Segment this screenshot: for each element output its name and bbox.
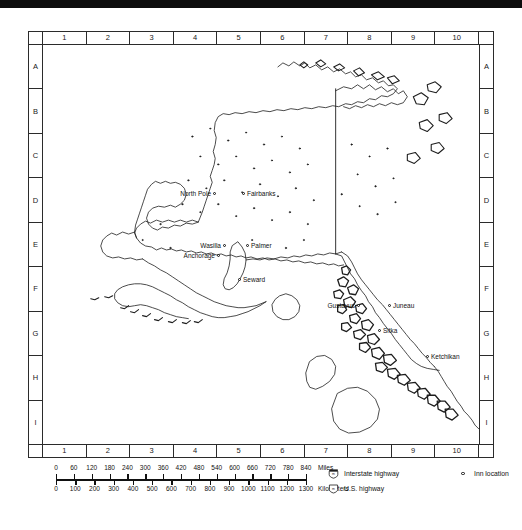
scale-miles-tick-720: 720 (265, 464, 276, 471)
legend-item-interstate: m Interstate highway (326, 466, 399, 481)
map-canvas[interactable]: North PoleFairbanksWasillaPalmerAnchorag… (43, 45, 479, 444)
scale-bar: 0601201802403003604204805406006607207808… (56, 464, 306, 495)
city-label-juneau: Juneau (393, 302, 414, 309)
grid-row-label-D: D (29, 178, 42, 222)
city-label-seward: Seward (243, 276, 265, 283)
scale-tick-mark (145, 474, 146, 480)
city-label-gustavus: Gustavus (43, 302, 355, 309)
scale-miles-tick-540: 540 (211, 464, 222, 471)
canada-border-southeast (336, 254, 440, 370)
grid-row-label-A: A (480, 45, 493, 89)
scale-km-tick-1300: 1300 (299, 485, 313, 492)
inn-location-marker[interactable] (223, 244, 226, 247)
scale-tick-mark (163, 474, 164, 480)
scale-km-tick-200: 200 (89, 485, 100, 492)
grid-row-label-G: G (480, 312, 493, 356)
grid-column-label-1: 1 (43, 32, 87, 44)
grid-row-label-C: C (29, 134, 42, 178)
inn-circle-icon (456, 472, 470, 475)
legend-label-us-highway: U.S. highway (344, 485, 384, 492)
scale-miles-tick-840: 840 (301, 464, 312, 471)
legend-item-inn: Inn location (456, 466, 509, 481)
grid-column-label-3: 3 (130, 32, 174, 44)
us-route-shield-icon: m (326, 483, 340, 494)
inn-location-marker[interactable] (357, 304, 360, 307)
scale-km-tick-100: 100 (70, 485, 81, 492)
grid-row-label-I: I (29, 401, 42, 444)
scale-miles-tick-0: 0 (54, 464, 58, 471)
interstate-shield-icon: m (326, 468, 340, 479)
legend-column-right: Inn location (456, 466, 509, 481)
scale-tick-mark (181, 474, 182, 480)
grid-column-label-4: 4 (174, 32, 218, 44)
grid-row-label-E: E (29, 223, 42, 267)
grid-row-label-A: A (29, 45, 42, 89)
legend-label-inn: Inn location (474, 470, 509, 477)
scan-edge-bar (0, 0, 522, 8)
grid-column-label-7: 7 (305, 445, 349, 457)
grid-row-label-F: F (480, 267, 493, 311)
inn-location-marker[interactable] (246, 244, 249, 247)
grid-row-label-F: F (29, 267, 42, 311)
scale-miles-tick-420: 420 (176, 464, 187, 471)
city-label-fairbanks: Fairbanks (247, 190, 276, 197)
scale-tick-mark (92, 474, 93, 480)
city-label-sitka: Sitka (383, 327, 397, 334)
grid-corner-spacer (29, 32, 43, 44)
interior-speckle (142, 128, 396, 249)
inn-location-marker[interactable] (238, 278, 241, 281)
grid-column-label-1: 1 (43, 445, 87, 457)
grid-column-label-9: 9 (392, 445, 436, 457)
grid-row-label-D: D (480, 178, 493, 222)
alaska-mainland-coast (135, 62, 398, 266)
scale-tick-mark (110, 474, 111, 480)
inn-location-marker[interactable] (388, 304, 391, 307)
scale-km-tick-1100: 1100 (261, 485, 275, 492)
map-legend: m Interstate highway m U.S. highway Inn … (326, 466, 399, 496)
scale-miles-tick-480: 480 (193, 464, 204, 471)
scale-miles-tick-180: 180 (104, 464, 115, 471)
scale-miles-tick-60: 60 (70, 464, 77, 471)
scale-km-tick-900: 900 (224, 485, 235, 492)
grid-row-label-B: B (29, 89, 42, 133)
scale-kilometers-ticks: 0100200300400500600700800900100011001200… (56, 485, 306, 495)
grid-rows-right: ABCDEFGHI (479, 45, 493, 444)
scale-km-tick-1200: 1200 (280, 485, 294, 492)
scale-miles-tick-300: 300 (140, 464, 151, 471)
grid-column-label-7: 7 (305, 32, 349, 44)
inn-location-marker[interactable] (242, 192, 245, 195)
legend-item-us-highway: m U.S. highway (326, 481, 399, 496)
legend-label-interstate: Interstate highway (344, 470, 399, 477)
scale-km-tick-700: 700 (185, 485, 196, 492)
grid-column-label-2: 2 (87, 445, 131, 457)
aleutian-islands (91, 296, 202, 324)
scale-miles-tick-120: 120 (86, 464, 97, 471)
scale-miles-tick-240: 240 (122, 464, 133, 471)
scale-tick-mark (217, 474, 218, 480)
scale-miles-tick-660: 660 (247, 464, 258, 471)
grid-column-label-6: 6 (261, 445, 305, 457)
grid-rows-left: ABCDEFGHI (29, 45, 43, 444)
canadian-arctic-islands (407, 82, 452, 164)
inn-location-marker[interactable] (378, 329, 381, 332)
map-frame: 12345678910 12345678910 ABCDEFGHI ABCDEF… (28, 31, 494, 458)
scale-miles-ticks: 0601201802403003604204805406006607207808… (56, 464, 306, 474)
seward-peninsula (135, 220, 199, 238)
grid-corner-spacer (479, 32, 493, 44)
inn-location-marker[interactable] (213, 192, 216, 195)
scale-km-tick-1000: 1000 (241, 485, 255, 492)
grid-row-label-G: G (29, 312, 42, 356)
inn-location-marker[interactable] (217, 254, 220, 257)
scale-tick-mark (199, 474, 200, 480)
scale-miles-tick-780: 780 (283, 464, 294, 471)
grid-column-label-10: 10 (435, 32, 479, 44)
grid-row-label-I: I (480, 401, 493, 444)
grid-row-label-E: E (480, 223, 493, 267)
scale-rule (56, 474, 306, 485)
grid-column-label-5: 5 (217, 32, 261, 44)
scale-tick-mark (288, 474, 289, 480)
scale-km-tick-300: 300 (108, 485, 119, 492)
inn-location-marker[interactable] (426, 355, 429, 358)
grid-row-label-H: H (480, 356, 493, 400)
panhandle-islands (334, 266, 458, 420)
